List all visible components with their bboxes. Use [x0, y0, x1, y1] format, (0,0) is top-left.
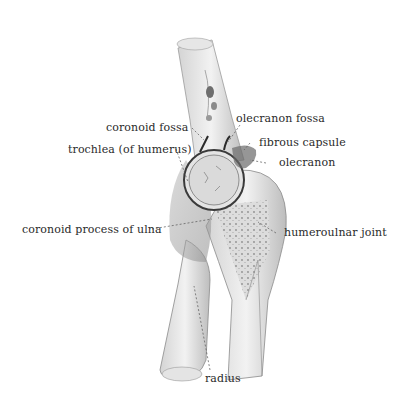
label-fibrous-capsule: fibrous capsule [259, 136, 346, 149]
label-coronoid-process: coronoid process of ulna [22, 223, 162, 236]
elbow-illustration [0, 0, 402, 406]
label-humeroulnar-joint: humeroulnar joint [284, 226, 387, 239]
label-radius: radius [205, 372, 241, 385]
label-olecranon-fossa: olecranon fossa [236, 112, 325, 125]
label-coronoid-fossa: coronoid fossa [106, 121, 188, 134]
anatomy-figure: olecranon fossa coronoid fossa fibrous c… [0, 0, 402, 406]
label-trochlea: trochlea (of humerus) [68, 143, 192, 156]
label-olecranon: olecranon [279, 156, 335, 169]
